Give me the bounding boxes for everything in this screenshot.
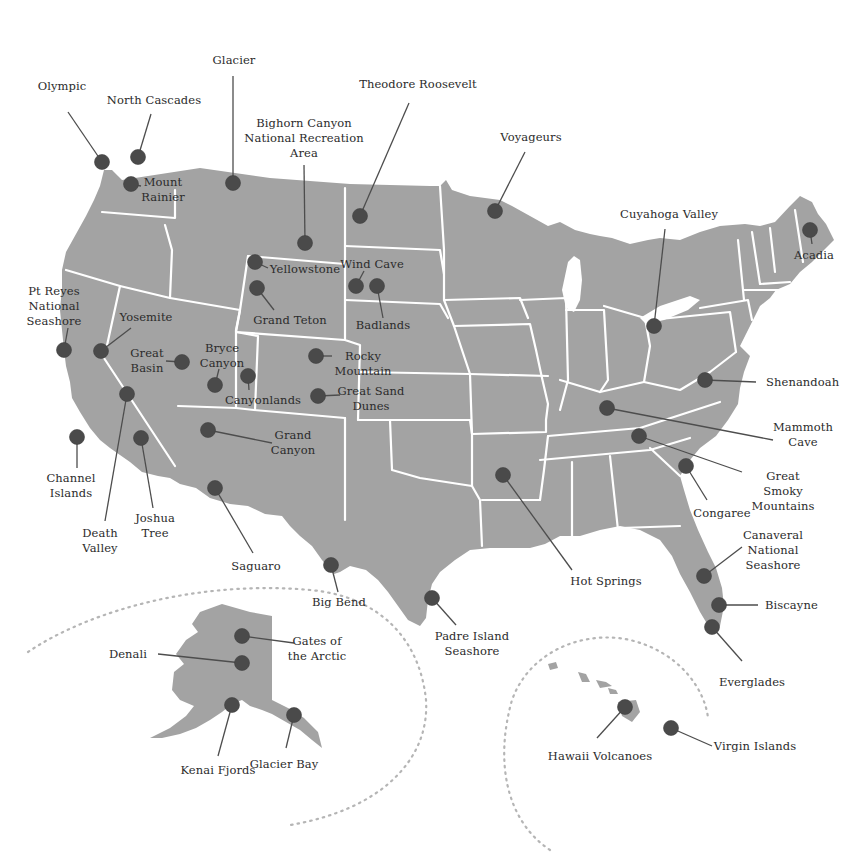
park-marker-padre-island[interactable]	[425, 591, 440, 606]
park-marker-badlands[interactable]	[370, 279, 385, 294]
park-label-everglades: Everglades	[719, 675, 785, 690]
park-label-canyonlands: Canyonlands	[225, 393, 301, 408]
park-marker-channel-islands[interactable]	[70, 430, 85, 445]
park-marker-big-bend[interactable]	[324, 558, 339, 573]
park-label-pt-reyes: Pt Reyes National Seashore	[27, 284, 82, 329]
park-label-hot-springs: Hot Springs	[570, 574, 641, 589]
park-marker-joshua-tree[interactable]	[134, 431, 149, 446]
park-label-biscayne: Biscayne	[765, 598, 818, 613]
park-marker-canaveral[interactable]	[697, 569, 712, 584]
leader-line-olympic	[68, 112, 102, 162]
park-label-voyageurs: Voyageurs	[500, 130, 561, 145]
park-marker-cuyahoga-valley[interactable]	[647, 319, 662, 334]
park-label-glacier: Glacier	[213, 53, 256, 68]
park-label-yellowstone: Yellowstone	[270, 262, 340, 277]
park-marker-glacier-bay[interactable]	[287, 708, 302, 723]
park-label-yosemite: Yosemite	[119, 310, 172, 325]
park-label-great-sand-dunes: Great Sand Dunes	[337, 384, 404, 414]
park-marker-great-basin[interactable]	[175, 355, 190, 370]
map-canvas	[0, 0, 853, 863]
park-label-shenandoah: Shenandoah	[766, 375, 839, 390]
park-label-mount-rainier: Mount Rainier	[141, 175, 185, 205]
park-marker-north-cascades[interactable]	[131, 150, 146, 165]
park-marker-grand-canyon[interactable]	[201, 423, 216, 438]
park-marker-everglades[interactable]	[705, 620, 720, 635]
park-marker-wind-cave[interactable]	[349, 279, 364, 294]
park-label-theodore-roosevelt: Theodore Roosevelt	[359, 77, 477, 92]
leader-line-voyageurs	[495, 152, 525, 211]
national-parks-map: OlympicNorth CascadesMount RainierGlacie…	[0, 0, 853, 863]
park-label-gates-of-the-arctic: Gates of the Arctic	[288, 634, 346, 664]
park-label-great-basin: Great Basin	[130, 346, 163, 376]
park-marker-yellowstone[interactable]	[248, 255, 263, 270]
park-marker-glacier[interactable]	[226, 176, 241, 191]
park-marker-pt-reyes[interactable]	[57, 343, 72, 358]
park-label-acadia: Acadia	[794, 248, 834, 263]
park-label-north-cascades: North Cascades	[107, 93, 202, 108]
park-label-padre-island: Padre Island Seashore	[435, 629, 509, 659]
park-label-mammoth-cave: Mammoth Cave	[773, 420, 833, 450]
contiguous-us-land	[60, 168, 834, 632]
park-label-rocky-mountain: Rocky Mountain	[335, 349, 392, 379]
park-label-bryce-canyon: Bryce Canyon	[200, 341, 245, 371]
park-label-grand-canyon: Grand Canyon	[271, 428, 316, 458]
park-marker-shenandoah[interactable]	[698, 373, 713, 388]
park-label-cuyahoga-valley: Cuyahoga Valley	[620, 207, 718, 222]
park-marker-mount-rainier[interactable]	[124, 177, 139, 192]
park-label-saguaro: Saguaro	[231, 559, 280, 574]
park-label-bighorn-canyon: Bighorn Canyon National Recreation Area	[244, 116, 363, 161]
park-marker-grand-teton[interactable]	[250, 281, 265, 296]
park-label-canaveral: Canaveral National Seashore	[743, 528, 803, 573]
park-marker-yosemite[interactable]	[94, 344, 109, 359]
park-marker-rocky-mountain[interactable]	[309, 349, 324, 364]
park-marker-death-valley[interactable]	[120, 387, 135, 402]
park-marker-voyageurs[interactable]	[488, 204, 503, 219]
park-marker-acadia[interactable]	[803, 223, 818, 238]
park-label-grand-teton: Grand Teton	[253, 313, 327, 328]
park-marker-denali[interactable]	[235, 656, 250, 671]
park-marker-biscayne[interactable]	[712, 598, 727, 613]
park-marker-kenai-fjords[interactable]	[225, 698, 240, 713]
park-marker-bryce-canyon[interactable]	[208, 378, 223, 393]
park-marker-mammoth-cave[interactable]	[600, 401, 615, 416]
park-label-congaree: Congaree	[693, 506, 750, 521]
park-label-wind-cave: Wind Cave	[340, 257, 404, 272]
park-marker-virgin-islands[interactable]	[664, 721, 679, 736]
park-label-joshua-tree: Joshua Tree	[135, 511, 175, 541]
park-label-great-smoky-mountains: Great Smoky Mountains	[748, 469, 818, 514]
park-label-olympic: Olympic	[38, 79, 87, 94]
park-marker-bighorn-canyon[interactable]	[298, 236, 313, 251]
park-marker-great-sand-dunes[interactable]	[311, 389, 326, 404]
park-label-channel-islands: Channel Islands	[46, 471, 95, 501]
park-marker-saguaro[interactable]	[208, 481, 223, 496]
park-marker-olympic[interactable]	[95, 155, 110, 170]
park-label-denali: Denali	[109, 647, 147, 662]
park-label-hawaii-volcanoes: Hawaii Volcanoes	[548, 749, 652, 764]
park-label-death-valley: Death Valley	[82, 526, 117, 556]
hawaii-inset-ring	[504, 638, 708, 851]
park-marker-theodore-roosevelt[interactable]	[353, 209, 368, 224]
alaska-land	[150, 604, 322, 748]
park-marker-hot-springs[interactable]	[496, 468, 511, 483]
park-label-glacier-bay: Glacier Bay	[250, 757, 319, 772]
park-label-badlands: Badlands	[356, 318, 411, 333]
park-marker-congaree[interactable]	[679, 459, 694, 474]
park-label-virgin-islands: Virgin Islands	[714, 739, 796, 754]
park-label-kenai-fjords: Kenai Fjords	[180, 763, 255, 778]
park-marker-hawaii-volcanoes[interactable]	[618, 700, 633, 715]
park-label-big-bend: Big Bend	[312, 595, 366, 610]
park-marker-great-smoky-mountains[interactable]	[632, 429, 647, 444]
park-marker-gates-of-the-arctic[interactable]	[235, 629, 250, 644]
